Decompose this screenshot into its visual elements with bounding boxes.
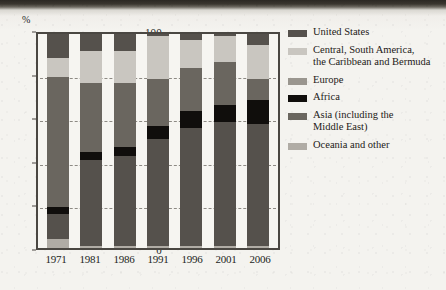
legend-swatch-asia [288,113,307,120]
legend-swatch-africa [288,95,307,102]
legend-swatch-united-states [288,30,307,37]
bar-segment [47,239,69,248]
x-axis-tick-1971: 1971 [45,253,67,271]
x-axis-tick-1996: 1996 [181,253,203,271]
legend-item-5: Oceania and other [288,139,438,152]
legend-item-label: Oceania and other [313,139,389,152]
bar-segment [180,111,202,128]
bar-segment [180,128,202,246]
legend-item-1: Central, South America,the Caribbean and… [288,44,438,69]
bar-segment [147,79,169,126]
legend-item-label: Central, South America,the Caribbean and… [313,44,431,69]
bar-segment [114,246,136,248]
bar-1971 [47,34,69,248]
bar-segment [247,124,269,246]
bar-segment [247,246,269,248]
legend-item-4: Asia (including theMiddle East) [288,109,438,134]
bar-segment [180,40,202,68]
bar-segment [214,122,236,246]
bar-segment [80,34,102,51]
bar-segment [80,246,102,248]
bar-segment [247,34,269,45]
legend-item-label: Asia (including theMiddle East) [313,109,393,134]
bar-2006 [247,34,269,248]
bar-segment [214,105,236,122]
bar-1981 [80,34,102,248]
bar-segment [180,68,202,111]
bar-segment [247,100,269,124]
bar-segment [147,126,169,139]
bar-segment [214,246,236,248]
bar-segment [114,147,136,156]
x-axis-tick-1981: 1981 [79,253,101,271]
bar-segment [80,160,102,246]
x-axis-tick-labels: 1971198119861991199620012006 [36,253,280,271]
bar-segment [47,58,69,77]
bar-segment [147,139,169,246]
chart-legend: United StatesCentral, South America,the … [288,26,438,156]
legend-item-label: Africa [313,91,340,104]
bar-segment [47,77,69,208]
legend-item-2: Europe [288,74,438,87]
legend-item-label: United States [313,26,369,39]
legend-item-3: Africa [288,91,438,104]
bar-2001 [214,34,236,248]
legend-swatch-europe [288,78,307,85]
bar-segment [47,34,69,58]
bar-segment [147,246,169,248]
y-axis-unit-label: % [22,14,30,25]
bar-segment [214,62,236,105]
legend-swatch-oceania [288,143,307,150]
bar-segment [114,34,136,51]
x-axis-tick-1986: 1986 [113,253,135,271]
bar-segment [114,83,136,147]
stacked-bar-series [38,34,278,248]
bar-1986 [114,34,136,248]
bar-segment [114,51,136,83]
legend-item-label: Europe [313,74,343,87]
legend-item-0: United States [288,26,438,39]
bar-segment [147,36,169,79]
x-axis-tick-2006: 2006 [249,253,271,271]
bar-segment [247,45,269,79]
bar-segment [80,51,102,83]
bar-segment [80,152,102,161]
bar-segment [47,214,69,240]
x-axis-tick-1991: 1991 [147,253,169,271]
bar-1996 [180,34,202,248]
bar-1991 [147,34,169,248]
bar-segment [114,156,136,246]
bar-segment [80,83,102,151]
plot-area [36,32,280,250]
bar-segment [180,246,202,248]
legend-swatch-central-south-america [288,48,307,55]
bar-segment [214,36,236,62]
x-axis-tick-2001: 2001 [215,253,237,271]
bar-segment [247,79,269,100]
